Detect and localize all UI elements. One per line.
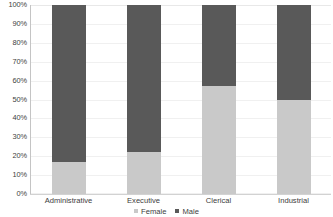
bar-segment-male[interactable] [52, 5, 86, 162]
y-axis-tick-label: 10% [13, 171, 28, 179]
bar-segment-female[interactable] [277, 100, 311, 195]
bar-stack [202, 5, 236, 194]
bar-group[interactable] [52, 5, 86, 194]
bar-series-container [31, 5, 331, 194]
y-axis-tick-label: 90% [13, 20, 28, 28]
y-axis-tick-label: 0% [17, 190, 27, 198]
y-axis-tick-label: 30% [13, 133, 28, 141]
chart-legend: FemaleMale [0, 205, 333, 217]
bar-group[interactable] [127, 5, 161, 194]
y-axis-tick-label: 60% [13, 77, 28, 85]
bar-segment-male[interactable] [202, 5, 236, 86]
stacked-bar-chart: 100%90%80%70%60%50%40%30%20%10%0% Admini… [0, 0, 333, 217]
bar-segment-female[interactable] [52, 162, 86, 194]
y-axis-tick-label: 100% [8, 1, 27, 9]
legend-item-male[interactable]: Male [175, 207, 198, 216]
bar-group[interactable] [202, 5, 236, 194]
bar-segment-male[interactable] [277, 5, 311, 100]
bar-segment-male[interactable] [127, 5, 161, 152]
legend-swatch-icon [175, 209, 179, 213]
y-axis-tick-label: 50% [13, 96, 28, 104]
y-axis-tick-label: 70% [13, 58, 28, 66]
y-axis: 100%90%80%70%60%50%40%30%20%10%0% [0, 0, 30, 217]
bar-segment-female[interactable] [127, 152, 161, 194]
y-axis-tick-label: 20% [13, 152, 28, 160]
bar-stack [127, 5, 161, 194]
legend-swatch-icon [134, 209, 138, 213]
bar-stack [52, 5, 86, 194]
legend-item-female[interactable]: Female [134, 207, 166, 216]
y-axis-tick-label: 40% [13, 114, 28, 122]
bar-stack [277, 5, 311, 194]
y-axis-tick-label: 80% [13, 39, 28, 47]
legend-label: Female [141, 207, 166, 216]
bar-group[interactable] [277, 5, 311, 194]
bar-segment-female[interactable] [202, 86, 236, 194]
legend-label: Male [182, 207, 198, 216]
plot-area [31, 5, 331, 194]
